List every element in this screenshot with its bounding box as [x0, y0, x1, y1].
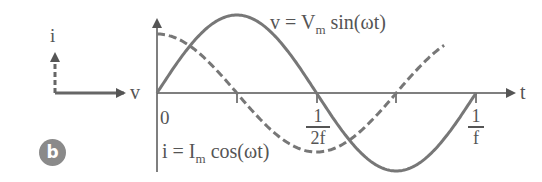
- figure: i v t 0 v = Vm sin(ωt) i = Im cos(ωt) 12…: [0, 0, 542, 182]
- half-period-tick-label: 12f: [306, 107, 330, 147]
- t-axis-label: t: [520, 82, 526, 102]
- voltage-equation: v = Vm sin(ωt): [270, 12, 386, 32]
- phasor-i-label: i: [50, 26, 55, 45]
- figure-badge: b: [39, 139, 66, 166]
- phasor-v-label: v: [130, 82, 140, 102]
- current-equation: i = Im cos(ωt): [162, 141, 269, 161]
- origin-label: 0: [160, 108, 170, 127]
- full-period-tick-label: 1f: [468, 107, 484, 147]
